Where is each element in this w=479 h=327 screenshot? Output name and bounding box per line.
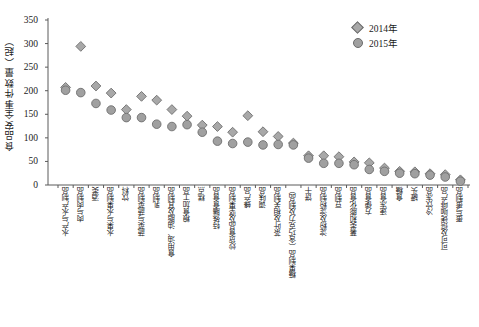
legend-item-2015[interactable]: 2015年 bbox=[352, 35, 398, 50]
data-point bbox=[335, 159, 344, 168]
data-point bbox=[456, 177, 465, 186]
x-label-10: 特殊膳食食品 bbox=[213, 188, 220, 230]
data-point bbox=[152, 120, 161, 129]
legend-label-2015: 2015年 bbox=[369, 36, 398, 50]
data-point bbox=[183, 120, 192, 129]
x-axis-category-labels: 水产与水产制品肉与肉制品酒类水果与水果制品饮料蔬菜与蔬菜制品乳制品食用油、油脂及… bbox=[0, 186, 479, 327]
data-point bbox=[152, 95, 162, 105]
circle-marker-icon bbox=[352, 37, 363, 48]
data-point bbox=[137, 113, 146, 122]
data-point bbox=[244, 138, 253, 147]
x-label-12: 蜂产品 bbox=[244, 188, 251, 209]
data-point bbox=[198, 128, 207, 137]
x-label-11: 炒货食品及坚果制品 bbox=[229, 188, 236, 251]
x-label-3: 水果与水果制品 bbox=[107, 188, 114, 237]
chart-legend: 2014年 2015年 bbox=[352, 20, 398, 50]
data-point bbox=[426, 171, 435, 180]
data-point bbox=[228, 127, 238, 137]
data-point bbox=[168, 122, 177, 131]
x-label-0: 水产与水产制品 bbox=[62, 188, 69, 237]
data-point bbox=[380, 167, 389, 176]
x-label-5: 蔬菜与蔬菜制品 bbox=[138, 188, 145, 237]
x-label-9: 糕点 bbox=[198, 188, 205, 202]
x-label-14: 茶叶及相关制品 bbox=[274, 188, 281, 237]
diamond-marker-icon bbox=[352, 22, 363, 33]
data-point bbox=[319, 159, 328, 168]
data-point bbox=[107, 106, 116, 115]
legend-label-2014: 2014年 bbox=[369, 21, 398, 35]
x-label-22: 食糖 bbox=[396, 188, 403, 202]
data-point bbox=[395, 169, 404, 178]
food-safety-incident-scatter-chart: 食品安全事件数量（起） 050100150200250300350 水产与水产制… bbox=[0, 0, 479, 327]
legend-item-2014[interactable]: 2014年 bbox=[352, 20, 398, 35]
x-label-20: 方便食品 bbox=[365, 188, 372, 216]
x-label-25: 可可及焙烤咖啡产品 bbox=[441, 188, 448, 251]
data-point bbox=[106, 88, 116, 98]
x-label-2: 酒类 bbox=[92, 188, 99, 202]
data-point bbox=[411, 169, 420, 178]
data-point bbox=[243, 111, 253, 121]
data-point bbox=[365, 165, 374, 174]
x-label-17: 淀粉及淀粉制品 bbox=[320, 188, 327, 237]
data-point bbox=[274, 140, 283, 149]
x-label-16: 饼干 bbox=[305, 188, 312, 202]
data-point bbox=[76, 42, 86, 52]
x-label-18: 豆制品 bbox=[335, 188, 342, 209]
x-label-21: 速冻食品 bbox=[380, 188, 387, 216]
x-label-23: 罐头 bbox=[411, 188, 418, 202]
data-point bbox=[228, 139, 237, 148]
x-label-4: 饮料 bbox=[122, 188, 129, 202]
data-point bbox=[289, 141, 298, 150]
x-label-26: 蛋与蛋制品 bbox=[456, 188, 463, 223]
x-label-1: 肉与肉制品 bbox=[77, 188, 84, 223]
data-point bbox=[213, 122, 223, 132]
data-point bbox=[350, 160, 359, 169]
x-label-13: 调味品 bbox=[259, 188, 266, 209]
data-point bbox=[182, 111, 192, 121]
data-point bbox=[259, 141, 268, 150]
data-point bbox=[441, 173, 450, 182]
data-point bbox=[61, 86, 70, 95]
x-label-8: 粮食加工品 bbox=[183, 188, 190, 223]
data-point bbox=[92, 99, 101, 108]
data-point bbox=[213, 137, 222, 146]
data-point bbox=[167, 105, 177, 115]
x-label-15: 糖果制品（含巧克力及制品） bbox=[289, 188, 296, 279]
data-point bbox=[76, 88, 85, 97]
data-point bbox=[122, 113, 131, 122]
x-label-7: 食用油、油脂及其制品 bbox=[168, 188, 175, 258]
data-point bbox=[137, 91, 147, 101]
series-2014年 bbox=[61, 42, 466, 185]
x-label-6: 乳制品 bbox=[153, 188, 160, 209]
x-label-24: 冷饮冻品 bbox=[426, 188, 433, 216]
data-point bbox=[258, 127, 268, 137]
x-label-19: 薯类和膨化食品 bbox=[350, 188, 357, 237]
data-point bbox=[91, 81, 101, 91]
data-point bbox=[304, 154, 313, 163]
